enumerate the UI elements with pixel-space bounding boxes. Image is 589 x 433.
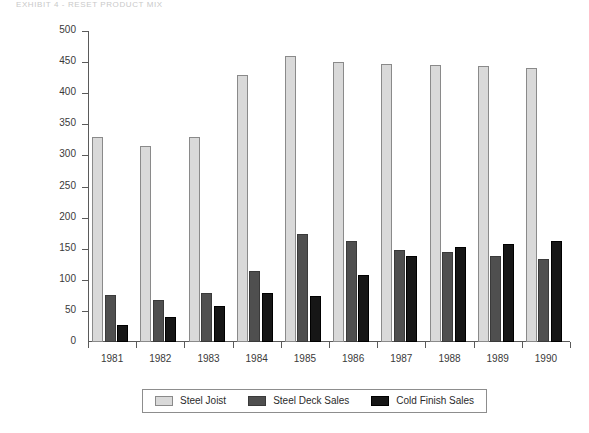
y-axis-tick: 200 [0, 218, 88, 219]
bar-cold [310, 296, 321, 342]
y-axis-tick: 500 [0, 31, 88, 32]
y-axis-tick: 400 [0, 93, 88, 94]
bar-joist [526, 68, 537, 342]
x-axis-tick-mark [474, 342, 475, 348]
bar-deck [249, 271, 260, 342]
legend-label: Steel Joist [180, 395, 226, 407]
bar-joist [478, 66, 489, 342]
legend-item: Steel Joist [155, 395, 226, 407]
bar-deck [153, 300, 164, 342]
bar-joist [237, 75, 248, 342]
legend-item: Steel Deck Sales [248, 395, 349, 407]
y-axis-tick-label: 500 [59, 24, 76, 36]
y-axis-tick: 450 [0, 62, 88, 63]
x-axis-tick-mark [522, 342, 523, 348]
x-axis-tick-mark [184, 342, 185, 348]
y-axis-tick-label: 0 [70, 335, 76, 347]
bar-cold [262, 293, 273, 342]
x-axis-tick-label: 1986 [329, 352, 377, 365]
y-axis-tick: 50 [0, 311, 88, 312]
x-axis: 1981198219831984198519861987198819891990 [88, 342, 570, 370]
legend-swatch-icon [155, 396, 173, 406]
bar-group [189, 31, 225, 342]
bar-deck [394, 250, 405, 342]
bar-joist [140, 146, 151, 342]
bar-group [140, 31, 176, 342]
bar-chart: Tons (Thousands) 50045040035030025020015… [0, 0, 589, 433]
bar-cold [551, 241, 562, 342]
y-axis-tick: 300 [0, 155, 88, 156]
x-axis-tick-mark [281, 342, 282, 348]
bar-group [333, 31, 369, 342]
bar-deck [105, 295, 116, 342]
bar-cold [406, 256, 417, 342]
y-axis-tick-label: 200 [59, 211, 76, 223]
bar-cold [117, 325, 128, 342]
legend-swatch-icon [248, 396, 266, 406]
y-axis-tick: 100 [0, 280, 88, 281]
bar-cold [503, 244, 514, 342]
x-axis-tick-label: 1981 [88, 352, 136, 365]
bar-cold [214, 306, 225, 342]
bar-deck [538, 259, 549, 342]
bar-group [92, 31, 128, 342]
y-axis-tick-label: 350 [59, 117, 76, 129]
x-axis-tick-label: 1989 [474, 352, 522, 365]
y-axis-tick-label: 300 [59, 148, 76, 160]
x-axis-tick-label: 1988 [426, 352, 474, 365]
bar-deck [346, 241, 357, 342]
bar-group [478, 31, 514, 342]
y-axis-tick-label: 450 [59, 55, 76, 67]
x-axis-tick-mark [570, 342, 571, 348]
x-axis-tick-mark [329, 342, 330, 348]
bar-cold [455, 247, 466, 342]
x-axis-tick-label: 1982 [136, 352, 184, 365]
bar-deck [490, 256, 501, 342]
y-axis-tick-label: 250 [59, 180, 76, 192]
x-axis-tick-label: 1983 [185, 352, 233, 365]
bar-group [381, 31, 417, 342]
legend-swatch-icon [371, 396, 389, 406]
bar-joist [381, 64, 392, 342]
chart-legend: Steel JoistSteel Deck SalesCold Finish S… [142, 389, 487, 413]
bar-deck [297, 234, 308, 342]
bars-layer [88, 31, 570, 342]
y-axis-tick-label: 150 [59, 242, 76, 254]
x-axis-tick-mark [425, 342, 426, 348]
x-axis-tick-mark [377, 342, 378, 348]
bar-group [430, 31, 466, 342]
bar-deck [201, 293, 212, 342]
x-axis-tick-label: 1984 [233, 352, 281, 365]
y-axis-tick: 250 [0, 187, 88, 188]
legend-label: Steel Deck Sales [273, 395, 349, 407]
y-axis-tick: 150 [0, 249, 88, 250]
legend-label: Cold Finish Sales [396, 395, 474, 407]
y-axis-tick: 350 [0, 124, 88, 125]
x-axis-tick-mark [136, 342, 137, 348]
x-axis-tick-label: 1990 [522, 352, 570, 365]
y-axis-tick-label: 100 [59, 273, 76, 285]
bar-joist [430, 65, 441, 342]
bar-joist [189, 137, 200, 342]
bar-cold [358, 275, 369, 342]
x-axis-tick-label: 1987 [377, 352, 425, 365]
bar-cold [165, 317, 176, 342]
x-axis-tick-mark [88, 342, 89, 348]
x-axis-tick-mark [233, 342, 234, 348]
bar-deck [442, 252, 453, 342]
bar-group [526, 31, 562, 342]
bar-group [285, 31, 321, 342]
bar-joist [333, 62, 344, 342]
bar-joist [92, 137, 103, 342]
y-axis-tick: 0 [0, 342, 88, 343]
bar-joist [285, 56, 296, 342]
x-axis-tick-label: 1985 [281, 352, 329, 365]
legend-item: Cold Finish Sales [371, 395, 474, 407]
y-axis-tick-label: 400 [59, 86, 76, 98]
bar-group [237, 31, 273, 342]
y-axis-tick-label: 50 [65, 304, 76, 316]
